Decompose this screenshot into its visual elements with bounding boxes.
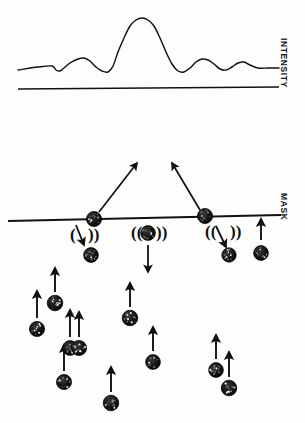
wave-right-left-glyph: (( [205,222,217,241]
beam-particle-p8 [71,340,86,355]
intensity-curve-group [18,18,279,72]
beam-particle-p2 [47,295,63,311]
ejected-particle-eject-left [84,248,99,263]
wave-center-right-glyph: )) [156,223,167,242]
mask-line-group [8,215,281,221]
wave-right-right-glyph: )) [230,222,241,241]
beam-particle-p1 [29,321,44,336]
wave-left-right-glyph: )) [88,225,99,244]
intensity-baseline-group [18,87,279,89]
mask-axis-label: MASK [279,193,289,220]
mask-line [8,215,281,221]
beam-particle-p7-body [56,374,71,389]
ejected-particle-eject-far [254,246,269,261]
intensity-baseline [18,87,279,89]
beam-particle-p10 [146,355,161,370]
mask-particle-site-center [141,226,156,241]
scatter-arrow-right-up [172,163,200,210]
mask-particles-group [86,208,212,240]
desorb-arrow-left [76,225,84,245]
beam-particle-p9 [122,310,138,326]
diagram-canvas: ())(())(()) [0,0,305,423]
diagram-root: ())(())(()) INTENSITY MASK [0,0,305,423]
beam-particles-group [29,295,236,411]
beam-arrows-group [37,268,229,392]
intensity-profile-curve [18,18,279,72]
beam-particle-p11 [103,395,119,411]
desorb-arrow-right [216,226,226,247]
ejected-particle-eject-right [222,248,236,262]
intensity-axis-label: INTENSITY [279,38,289,88]
beam-particle-p12 [209,363,224,378]
scatter-arrow-left-up [99,163,137,212]
beam-particle-p7 [56,374,71,389]
beam-particle-p8-body [71,340,86,355]
wave-symbols-group: ())(())(()) [70,222,241,244]
beam-particle-p11-body [103,395,119,411]
beam-particle-p13 [221,380,237,396]
wave-left-left-glyph: ( [70,225,76,244]
wave-center-left-glyph: (( [131,223,143,242]
scatter-arrows-group [99,163,200,212]
